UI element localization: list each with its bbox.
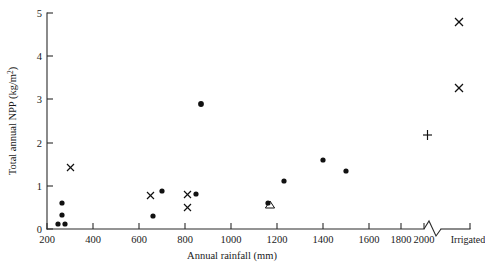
y-axis-title-main: Total annual NPP (kg/m xyxy=(7,74,19,175)
x-tick-label-1000: 1000 xyxy=(221,234,242,245)
data-point-circle xyxy=(159,188,164,193)
x-tick-label-irrigated: Irrigated xyxy=(451,234,485,245)
data-point-cross xyxy=(184,191,191,198)
data-point-plus xyxy=(423,130,432,140)
x-tick-label-2000: 2000 xyxy=(414,234,435,245)
x-axis-tick-labels: 200 400 600 800 1000 1200 1400 1600 1800… xyxy=(39,234,485,245)
data-point-circle xyxy=(59,200,64,205)
data-point-cross xyxy=(67,164,74,171)
data-point-circle xyxy=(193,191,198,196)
data-point-circle xyxy=(62,221,67,226)
data-point-circle xyxy=(343,168,348,173)
x-tick-label-1600: 1600 xyxy=(359,234,380,245)
x-axis-title: Annual rainfall (mm) xyxy=(187,250,277,262)
data-point-circle xyxy=(150,213,155,218)
data-point-circle xyxy=(59,212,64,217)
y-tick-label-1: 1 xyxy=(37,181,42,192)
x-tick-label-600: 600 xyxy=(131,234,147,245)
x-axis-ticks xyxy=(47,223,470,229)
y-tick-label-3: 3 xyxy=(37,94,42,105)
data-point-cross xyxy=(184,204,191,211)
data-point-circle xyxy=(320,157,325,162)
y-tick-label-4: 4 xyxy=(37,51,43,62)
x-tick-label-1800: 1800 xyxy=(391,234,412,245)
x-tick-label-1200: 1200 xyxy=(267,234,288,245)
x-tick-label-1400: 1400 xyxy=(313,234,334,245)
y-axis-tick-labels: 0 1 2 3 4 5 xyxy=(37,8,43,235)
scatter-chart-figure: 0 1 2 3 4 5 200 400 600 800 100 xyxy=(0,0,485,267)
data-point-cross xyxy=(147,192,154,199)
y-axis-title: Total annual NPP (kg/m2) xyxy=(6,66,19,175)
data-point-cross xyxy=(455,84,463,92)
x-tick-label-800: 800 xyxy=(177,234,193,245)
y-axis-ticks xyxy=(47,13,53,229)
data-point-circle xyxy=(281,178,286,183)
data-point-circle xyxy=(55,221,60,226)
chart-svg: 0 1 2 3 4 5 200 400 600 800 100 xyxy=(0,0,485,267)
series-plus-points xyxy=(423,130,432,140)
y-tick-label-5: 5 xyxy=(37,8,42,19)
data-point-cross xyxy=(455,18,463,26)
series-cross-points xyxy=(67,18,463,211)
series-circle-points xyxy=(55,101,348,226)
y-tick-label-2: 2 xyxy=(37,138,42,149)
x-tick-label-200: 200 xyxy=(39,234,55,245)
x-tick-label-400: 400 xyxy=(85,234,101,245)
y-axis-title-text: Total annual NPP (kg/m2) xyxy=(6,66,19,175)
data-point-circle xyxy=(198,101,204,107)
y-axis-title-tail: ) xyxy=(7,66,19,70)
